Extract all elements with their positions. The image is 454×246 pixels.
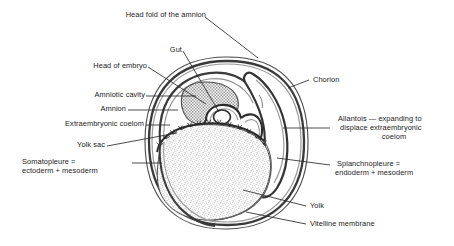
label-head-of-embryo: Head of embryo xyxy=(30,62,147,71)
label-chorion: Chorion xyxy=(313,76,403,85)
label-yolk-sac: Yolk sac xyxy=(20,141,105,150)
label-yolk: Yolk xyxy=(310,202,370,211)
label-head-fold-of-the-amnion: Head fold of the amnion xyxy=(20,11,206,20)
embryology-diagram: Head fold of the amnion Gut Head of embr… xyxy=(0,0,454,246)
label-vitelline-membrane: Vitelline membrane xyxy=(310,220,430,229)
label-amnion: Amnion xyxy=(20,105,126,114)
leader-head-fold xyxy=(205,17,258,58)
label-gut: Gut xyxy=(60,46,182,55)
label-allantois-line3: coelom xyxy=(338,133,450,142)
label-somatopleure-line2: ectoderm + mesoderm xyxy=(22,167,152,176)
label-extraembryonic-coelom: Extraembryonic coelom xyxy=(8,120,144,129)
label-amniotic-cavity: Amniotic cavity xyxy=(20,91,145,100)
label-splanchnopleure-line2: endoderm + mesoderm xyxy=(335,169,454,178)
leader-chorion xyxy=(288,80,309,88)
